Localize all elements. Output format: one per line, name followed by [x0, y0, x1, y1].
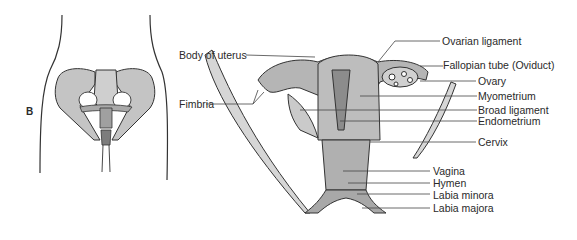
- uterus-illustration: [258, 55, 428, 213]
- label-cervix: Cervix: [478, 136, 508, 148]
- label-ovarian-ligament: Ovarian ligament: [442, 35, 521, 47]
- pelvis-illustration: [55, 69, 155, 172]
- label-labia-majora: Labia majora: [433, 202, 494, 214]
- panel-label: B: [26, 106, 33, 117]
- label-body-of-uterus: Body of uterus: [179, 49, 247, 61]
- label-vagina: Vagina: [433, 165, 465, 177]
- label-fallopian-tube: Fallopian tube (Oviduct): [443, 59, 554, 71]
- label-myometrium: Myometrium: [478, 90, 536, 102]
- label-hymen: Hymen: [433, 177, 466, 189]
- label-endometrium: Endometrium: [478, 115, 540, 127]
- label-labia-minora: Labia minora: [433, 189, 494, 201]
- label-ovary: Ovary: [478, 75, 506, 87]
- label-fimbria: Fimbria: [179, 98, 214, 110]
